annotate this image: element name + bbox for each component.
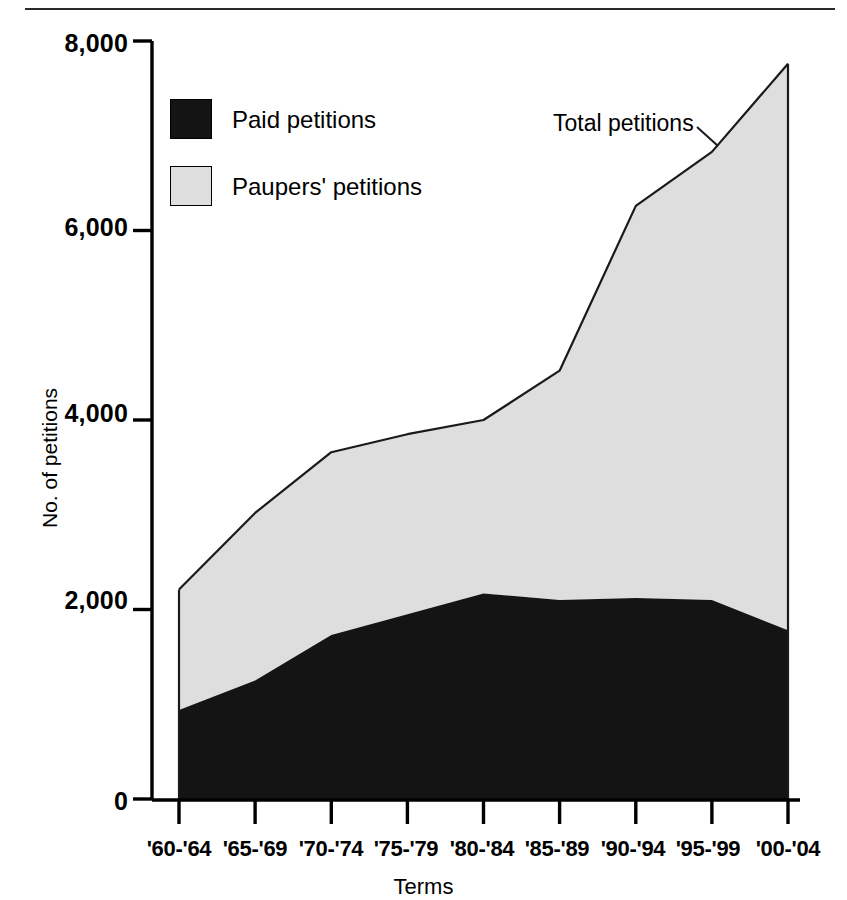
area-chart-canvas: [0, 0, 847, 900]
legend-swatch-paupers-petitions: [170, 166, 212, 206]
x-tick-label-2: '65-'69: [217, 836, 293, 862]
x-axis-title: Terms: [0, 874, 847, 900]
x-tick-label-1: '60-'64: [141, 836, 217, 862]
total-petitions-annotation: Total petitions: [553, 110, 694, 137]
chart-figure: 8,000 6,000 4,000 2,000 0 No. of petitio…: [0, 0, 847, 900]
legend-label-paid-petitions: Paid petitions: [232, 106, 376, 134]
x-tick-label-8: '95-'99: [670, 836, 746, 862]
legend-swatch-paid-petitions: [170, 99, 212, 139]
y-tick-label-4000: 4,000: [10, 399, 128, 428]
y-tick-label-0: 0: [10, 787, 128, 816]
y-tick-label-6000: 6,000: [10, 213, 128, 242]
y-axis-title: No. of petitions: [38, 388, 62, 528]
x-tick-label-7: '90-'94: [595, 836, 671, 862]
x-tick-label-6: '85-'89: [519, 836, 595, 862]
legend-label-paupers-petitions: Paupers' petitions: [232, 173, 422, 201]
y-axis-ticks: [133, 41, 152, 799]
x-tick-label-9: '00-'04: [750, 836, 826, 862]
x-tick-label-3: '70-'74: [293, 836, 369, 862]
y-tick-label-8000: 8,000: [10, 29, 128, 58]
y-tick-label-2000: 2,000: [10, 586, 128, 615]
x-tick-label-5: '80-'84: [444, 836, 520, 862]
total-petitions-leader-line: [697, 127, 718, 146]
x-tick-label-4: '75-'79: [368, 836, 444, 862]
x-axis-ticks: [179, 800, 788, 824]
